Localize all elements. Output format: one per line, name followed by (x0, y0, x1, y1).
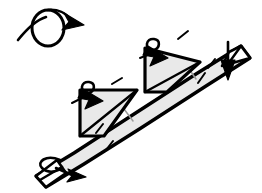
turn-over-ring-icon (32, 10, 64, 46)
curl-arrowhead-icon (67, 169, 86, 182)
tick-upper-right-of-lower-flap (112, 78, 122, 84)
origami-diagram-figure (0, 0, 262, 193)
main-paper-band (36, 46, 250, 187)
turn-over-arrow-icon (18, 10, 84, 46)
turn-over-arrowhead-icon (62, 13, 84, 30)
origami-diagram-canvas (0, 0, 262, 193)
tick-upper-right-of-upper-flap (178, 31, 188, 39)
